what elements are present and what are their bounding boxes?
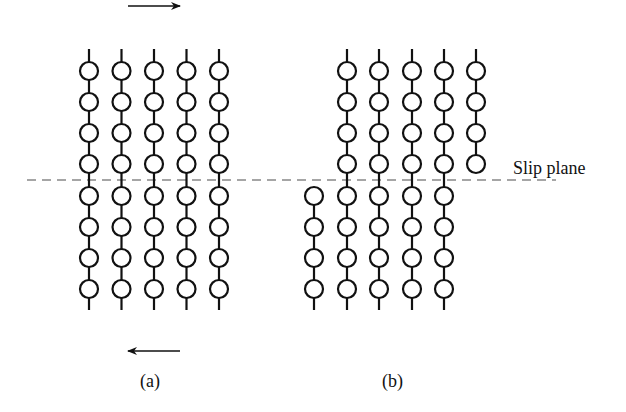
atom-circle-icon (178, 218, 196, 236)
atom-circle-icon (305, 218, 323, 236)
atom-circle-icon (178, 93, 196, 111)
atom-circle-icon (403, 155, 421, 173)
atom-circle-icon (80, 280, 98, 298)
atom-circle-icon (145, 62, 163, 80)
slip-plane-label: Slip plane (513, 158, 586, 179)
atom-circle-icon (403, 249, 421, 267)
atom-circle-icon (435, 62, 453, 80)
atom-circle-icon (435, 155, 453, 173)
atom-circle-icon (145, 249, 163, 267)
atom-circle-icon (403, 218, 421, 236)
atom-circle-icon (370, 124, 388, 142)
atom-circle-icon (338, 218, 356, 236)
atom-circle-icon (467, 155, 485, 173)
atom-circle-icon (113, 124, 131, 142)
atom-circle-icon (113, 249, 131, 267)
atom-circle-icon (370, 280, 388, 298)
atom-circle-icon (435, 249, 453, 267)
atom-circle-icon (113, 218, 131, 236)
atom-circle-icon (338, 249, 356, 267)
atom-circle-icon (467, 93, 485, 111)
atom-circle-icon (145, 218, 163, 236)
atom-circle-icon (80, 124, 98, 142)
atom-circle-icon (403, 187, 421, 205)
atom-circle-icon (210, 93, 228, 111)
atom-circle-icon (435, 218, 453, 236)
atom-circle-icon (80, 187, 98, 205)
atom-circle-icon (403, 62, 421, 80)
atom-circle-icon (403, 124, 421, 142)
atom-circle-icon (210, 218, 228, 236)
slip-diagram (0, 0, 626, 412)
atom-circle-icon (338, 187, 356, 205)
atom-circle-icon (178, 280, 196, 298)
atom-circle-icon (370, 249, 388, 267)
panel-a-label: (a) (140, 371, 160, 392)
atom-circle-icon (113, 280, 131, 298)
atom-circle-icon (80, 249, 98, 267)
atom-circle-icon (113, 155, 131, 173)
atom-circle-icon (370, 187, 388, 205)
atom-circle-icon (145, 187, 163, 205)
atom-circle-icon (145, 155, 163, 173)
atom-circle-icon (80, 218, 98, 236)
atom-circle-icon (338, 93, 356, 111)
panel-b-label: (b) (382, 371, 403, 392)
atom-circle-icon (178, 124, 196, 142)
atom-circle-icon (403, 280, 421, 298)
atom-circle-icon (178, 155, 196, 173)
atom-circle-icon (467, 124, 485, 142)
atom-circle-icon (467, 62, 485, 80)
atom-circle-icon (305, 249, 323, 267)
atom-circle-icon (338, 62, 356, 80)
atom-circle-icon (113, 187, 131, 205)
atom-circle-icon (113, 93, 131, 111)
atom-circle-icon (305, 187, 323, 205)
atom-circle-icon (145, 124, 163, 142)
atom-circle-icon (435, 187, 453, 205)
atom-circle-icon (370, 155, 388, 173)
atom-circle-icon (178, 62, 196, 80)
atom-circle-icon (338, 280, 356, 298)
atom-circle-icon (403, 93, 421, 111)
atom-circle-icon (435, 93, 453, 111)
atom-circle-icon (210, 124, 228, 142)
atom-circle-icon (80, 62, 98, 80)
atom-circle-icon (210, 155, 228, 173)
atom-circle-icon (338, 155, 356, 173)
atom-circle-icon (370, 62, 388, 80)
atom-circle-icon (145, 280, 163, 298)
atom-circle-icon (210, 249, 228, 267)
atom-circle-icon (435, 280, 453, 298)
atom-circle-icon (210, 187, 228, 205)
atom-circle-icon (210, 280, 228, 298)
atom-circle-icon (80, 93, 98, 111)
atom-circle-icon (210, 62, 228, 80)
atom-circle-icon (145, 93, 163, 111)
atom-circle-icon (80, 155, 98, 173)
atom-circle-icon (338, 124, 356, 142)
atom-circle-icon (113, 62, 131, 80)
atom-circle-icon (370, 93, 388, 111)
atom-circle-icon (178, 249, 196, 267)
atom-circle-icon (370, 218, 388, 236)
atom-circle-icon (178, 187, 196, 205)
atom-circle-icon (435, 124, 453, 142)
atom-circle-icon (305, 280, 323, 298)
